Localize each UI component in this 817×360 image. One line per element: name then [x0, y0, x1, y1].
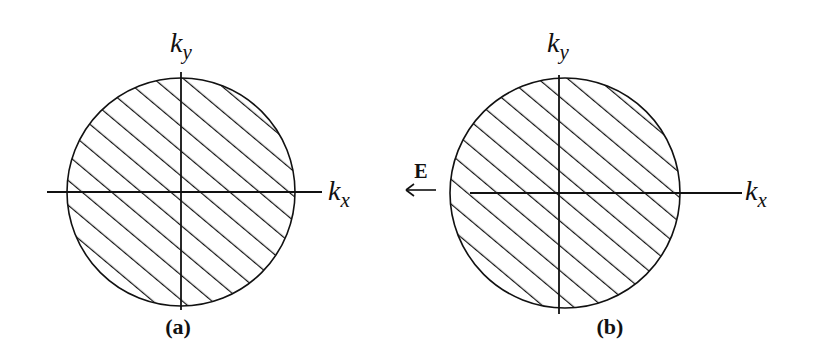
diagram-canvas: ky kx (a) E ky kx (b) [0, 0, 817, 360]
field-label: E [414, 160, 427, 182]
kx-label-a: kx [328, 175, 350, 212]
panel-a: ky kx (a) [47, 27, 350, 339]
panel-b: ky kx (b) [445, 27, 767, 339]
kx-label-b: kx [745, 175, 767, 212]
caption-b: (b) [597, 314, 624, 339]
ky-label-b: ky [547, 27, 569, 64]
electric-field-indicator: E [406, 160, 436, 196]
ky-label-a: ky [170, 27, 192, 64]
caption-a: (a) [165, 314, 191, 339]
hatched-fermi-disk-b [445, 70, 690, 320]
